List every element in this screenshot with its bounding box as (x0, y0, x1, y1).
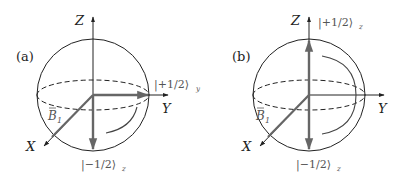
panel-b: (b) Z Y X B 1 |+1/2⟩ z |−1/2 (232, 13, 388, 173)
ket-plus-half-z: |+1/2⟩ z (318, 16, 363, 31)
svg-text:z: z (336, 165, 341, 173)
b1-label: B 1 (255, 108, 270, 125)
y-axis-label: Y (162, 101, 172, 116)
x-axis-label: X (241, 139, 252, 154)
panel-a-label: (a) (16, 49, 34, 64)
b1-field-vector (268, 95, 309, 137)
y-axis-label: Y (378, 101, 388, 116)
svg-text:|+1/2⟩: |+1/2⟩ (154, 78, 189, 92)
ket-plus-half-y: |+1/2⟩ y (154, 78, 201, 93)
b1-label: B 1 (47, 108, 62, 125)
z-axis-label: Z (74, 13, 85, 28)
svg-text:B: B (255, 109, 265, 123)
svg-text:B: B (47, 109, 57, 123)
svg-text:z: z (121, 165, 126, 173)
ket-minus-half-z: |−1/2⟩ z (81, 158, 126, 173)
panel-b-label: (b) (232, 49, 250, 64)
rotation-arc (106, 107, 137, 133)
ket-minus-half-z: |−1/2⟩ z (296, 158, 341, 173)
svg-text:|+1/2⟩: |+1/2⟩ (318, 16, 353, 30)
svg-text:y: y (195, 85, 201, 93)
z-axis-label: Z (290, 13, 301, 28)
svg-text:z: z (358, 23, 363, 31)
svg-text:1: 1 (57, 116, 62, 125)
svg-text:1: 1 (265, 116, 270, 125)
bloch-sphere-figure: (a) Z Y X B 1 |+1/2⟩ y (0, 0, 411, 178)
svg-text:|−1/2⟩: |−1/2⟩ (296, 158, 331, 172)
svg-text:|−1/2⟩: |−1/2⟩ (81, 158, 116, 172)
panel-a: (a) Z Y X B 1 |+1/2⟩ y (16, 13, 201, 173)
x-axis-label: X (25, 139, 36, 154)
